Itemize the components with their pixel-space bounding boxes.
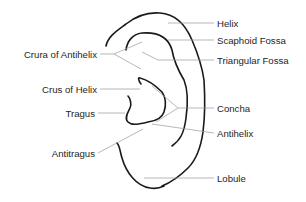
ear-outline bbox=[106, 13, 205, 189]
label-antitragus: Antitragus bbox=[52, 148, 95, 159]
label-triangular-fossa: Triangular Fossa bbox=[217, 55, 289, 66]
labels-left: Crura of Antihelix Crus of Helix Tragus … bbox=[24, 49, 97, 159]
ear-anatomy-diagram: Crura of Antihelix Crus of Helix Tragus … bbox=[0, 0, 306, 202]
label-scaphoid-fossa: Scaphoid Fossa bbox=[217, 35, 286, 46]
label-concha: Concha bbox=[217, 103, 251, 114]
leader-triangular-fossa bbox=[142, 52, 214, 60]
label-lobule: Lobule bbox=[217, 173, 246, 184]
concha-outline bbox=[126, 78, 165, 125]
antihelix-outline bbox=[126, 33, 187, 146]
label-crus-of-helix: Crus of Helix bbox=[42, 84, 97, 95]
label-tragus: Tragus bbox=[65, 108, 95, 119]
labels-right: Helix Scaphoid Fossa Triangular Fossa Co… bbox=[217, 18, 289, 184]
lobule-outline bbox=[117, 143, 164, 188]
label-antihelix: Antihelix bbox=[217, 128, 253, 139]
label-helix: Helix bbox=[217, 18, 239, 29]
helix-outline bbox=[106, 13, 205, 186]
label-crura-of-antihelix: Crura of Antihelix bbox=[24, 49, 97, 60]
